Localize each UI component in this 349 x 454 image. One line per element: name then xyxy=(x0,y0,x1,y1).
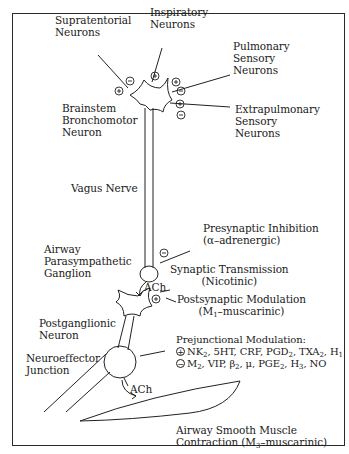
vagus-text: Vagus Nerve xyxy=(71,182,138,194)
extrapulmonary-line1: Extrapulmonary xyxy=(235,103,320,115)
label-pulmonary: Pulmonary Sensory Neurons xyxy=(233,40,290,76)
postsynaptic-line2-post: –muscarinic) xyxy=(218,305,285,317)
ganglion-line3: Ganglion xyxy=(44,267,132,279)
presynaptic-line1: Presynaptic Inhibition xyxy=(203,222,319,234)
leader-postsynaptic-2 xyxy=(166,298,176,302)
inspiratory-line2: Neurons xyxy=(150,18,208,30)
postganglionic-line1: Postganglionic xyxy=(39,317,116,329)
vagus-axon xyxy=(145,108,153,268)
label-prejunctional: Prejunctional Modulation: +NK2, 5HT, CRF… xyxy=(176,334,343,370)
smooth-muscle-cell xyxy=(80,381,240,421)
label-smooth-muscle: Airway Smooth Muscle Contraction (M3–mus… xyxy=(176,424,327,448)
prejunctional-title: Prejunctional Modulation: xyxy=(176,334,343,346)
smooth-muscle-line2: Contraction (M3–muscarinic) xyxy=(176,436,327,448)
neuroeffector-line2: Junction xyxy=(26,364,100,376)
ganglion-line2: Parasympathetic xyxy=(44,255,132,267)
label-brainstem: Brainstem Bronchomotor Neuron xyxy=(62,102,137,138)
brainstem-line2: Bronchomotor xyxy=(62,114,137,126)
postsynaptic-line2: (M1–muscarinic) xyxy=(177,305,306,317)
leader-inspiratory xyxy=(152,48,162,82)
label-synaptic: Synaptic Transmission (Nicotinic) xyxy=(170,263,289,287)
postsynaptic-line1: Postsynaptic Modulation xyxy=(177,293,306,305)
neuroeffector-line1: Neuroeffector xyxy=(26,352,100,364)
minus-sign-icon: − xyxy=(176,359,185,368)
extrapulmonary-line3: Neurons xyxy=(235,127,320,139)
prejunctional-inhibitory-row: −M2, VIP, β2, μ, PGE2, H3, NO xyxy=(176,358,343,370)
ach-synapse-text: ACh xyxy=(144,281,166,293)
postganglionic-axon xyxy=(118,316,134,350)
presynaptic-terminal xyxy=(140,266,158,282)
synaptic-line2: (Nicotinic) xyxy=(170,275,289,287)
pulmonary-line3: Neurons xyxy=(233,64,290,76)
label-extrapulmonary: Extrapulmonary Sensory Neurons xyxy=(235,103,320,139)
label-neuroeffector: Neuroeffector Junction xyxy=(26,352,100,376)
ganglion-line1: Airway xyxy=(44,243,132,255)
brainstem-line1: Brainstem xyxy=(62,102,137,114)
leader-pulmonary xyxy=(172,75,230,92)
label-postganglionic: Postganglionic Neuron xyxy=(39,317,116,341)
extrapulmonary-line2: Sensory xyxy=(235,115,320,127)
plus-sign-icon: + xyxy=(176,347,185,356)
leader-supratentorial xyxy=(98,55,128,88)
leader-prejunctional xyxy=(140,351,165,356)
postsynaptic-line2-pre: (M xyxy=(199,305,214,317)
pulmonary-line2: Sensory xyxy=(233,52,290,64)
supratentorial-line2: Neurons xyxy=(55,26,131,38)
presynaptic-line2: (α–adrenergic) xyxy=(203,234,319,246)
smooth-muscle-line2-pre: Contraction (M xyxy=(176,436,256,448)
pulmonary-line1: Pulmonary xyxy=(233,40,290,52)
smooth-muscle-line1: Airway Smooth Muscle xyxy=(176,424,327,436)
label-ach-junction: ACh xyxy=(130,383,152,395)
label-ganglion: Airway Parasympathetic Ganglion xyxy=(44,243,132,279)
label-ach-synapse: ACh xyxy=(144,281,166,293)
smooth-muscle-line2-post: –muscarinic) xyxy=(260,436,327,448)
label-supratentorial: Supratentorial Neurons xyxy=(55,14,131,38)
supratentorial-line1: Supratentorial xyxy=(55,14,131,26)
label-vagus: Vagus Nerve xyxy=(71,182,138,194)
label-presynaptic: Presynaptic Inhibition (α–adrenergic) xyxy=(203,222,319,246)
postganglionic-line2: Neuron xyxy=(39,329,116,341)
inspiratory-line1: Inspiratory xyxy=(150,6,208,18)
synaptic-line1: Synaptic Transmission xyxy=(170,263,289,275)
label-postsynaptic: Postsynaptic Modulation (M1–muscarinic) xyxy=(177,293,306,317)
prejunctional-excitatory-row: +NK2, 5HT, CRF, PGD2, TXA2, H1 xyxy=(176,346,343,358)
label-inspiratory: Inspiratory Neurons xyxy=(150,6,208,30)
junction-branch-2 xyxy=(124,378,128,386)
ach-junction-text: ACh xyxy=(130,383,152,395)
brainstem-line3: Neuron xyxy=(62,126,137,138)
